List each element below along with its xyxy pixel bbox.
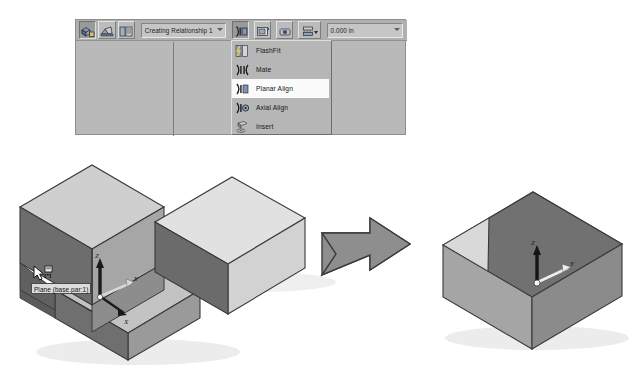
assemble-icon xyxy=(81,24,95,37)
chevron-down-icon[interactable] xyxy=(314,31,318,34)
menu-item-label: Planar Align xyxy=(256,85,293,92)
planar-align-icon xyxy=(235,82,250,96)
relationship-step-value: Creating Relationship 1 xyxy=(145,27,213,34)
offset-value-combo[interactable]: 0.000 in xyxy=(327,23,403,38)
menu-item-axial-align[interactable]: Axial Align xyxy=(232,98,331,117)
menu-item-label: FlashFit xyxy=(256,47,281,54)
menu-item-planar-align[interactable]: Planar Align xyxy=(232,79,329,98)
select-face-cursor xyxy=(33,265,55,282)
axis-label-z-right: Z xyxy=(531,239,535,247)
reduced-steps-button[interactable] xyxy=(98,21,115,39)
assembly-options-button[interactable] xyxy=(118,21,135,39)
offset-type-icon xyxy=(302,24,316,37)
offset-value-text: 0.000 in xyxy=(331,27,354,34)
command-bar-toolbar: Creating Relationship 1 xyxy=(76,20,407,41)
mate-icon xyxy=(235,63,250,77)
panel-divider xyxy=(173,42,174,136)
menu-item-label: Axial Align xyxy=(256,104,288,111)
assembled-result-part[interactable]: Z Y xyxy=(443,192,622,349)
lock-rotation-icon xyxy=(278,24,292,37)
menu-item-insert[interactable]: Insert xyxy=(232,117,331,136)
assemble-tool-button[interactable] xyxy=(79,21,96,39)
toolbar-separator-4 xyxy=(272,21,275,39)
flashfit-icon xyxy=(235,44,250,58)
toolbar-separator-1 xyxy=(136,21,139,39)
toolbar-separator-5 xyxy=(294,21,297,39)
flip-icon xyxy=(256,24,270,37)
flip-button[interactable] xyxy=(254,21,271,39)
toolbar-separator-3 xyxy=(250,21,253,39)
chevron-down-icon[interactable] xyxy=(394,28,400,31)
assembly-options-icon xyxy=(119,24,133,37)
lock-rotation-button[interactable] xyxy=(276,21,293,39)
result-flow-arrow xyxy=(322,218,410,275)
menu-item-flashfit[interactable]: FlashFit xyxy=(232,41,331,60)
relationship-type-menu[interactable]: FlashFit Mate Planar Align xyxy=(231,40,332,135)
menu-item-mate[interactable]: Mate xyxy=(232,60,331,79)
axis-label-z: Z xyxy=(95,252,99,260)
planar-align-icon xyxy=(234,24,248,37)
axis-label-x: X xyxy=(123,318,129,326)
reduced-steps-icon xyxy=(100,24,114,37)
menu-item-label: Insert xyxy=(256,123,273,130)
offset-type-button[interactable] xyxy=(298,21,321,39)
insert-icon xyxy=(235,120,250,134)
plane-tooltip: Plane (base.par:1) xyxy=(31,283,91,294)
toolbar-separator-6 xyxy=(322,21,325,39)
toolbar-separator-2 xyxy=(228,21,231,39)
chevron-down-icon[interactable] xyxy=(217,28,223,31)
relationship-step-combo[interactable]: Creating Relationship 1 xyxy=(141,23,226,38)
menu-item-label: Mate xyxy=(256,66,271,73)
axial-align-icon xyxy=(235,101,250,115)
relationship-type-button[interactable] xyxy=(232,21,249,39)
